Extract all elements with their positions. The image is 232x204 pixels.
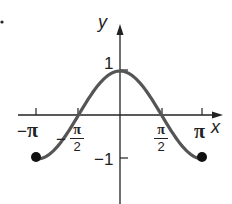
x-tick-label-neg-pi-half: π 2 [70,123,84,153]
y-axis-arrow-icon [117,24,124,35]
fraction-numerator: π [70,123,84,137]
x-tick-neg-half-sign: − [56,131,66,148]
y-ticks [120,70,128,158]
endpoint-left [31,152,41,162]
y-axis-label: y [98,13,107,31]
fraction-numerator: π [154,123,168,137]
bullet-mark [0,20,3,23]
x-ticks [36,108,202,115]
y-tick-label-1: 1 [104,55,113,72]
minus-sign: − [17,122,27,141]
y-tick-label-neg1: −1 [94,151,113,168]
cosine-graph [0,0,232,204]
fraction-denominator: 2 [70,140,84,153]
fraction-denominator: 2 [154,140,168,153]
x-axis-label: x [211,118,220,136]
x-tick-label-pi: π [194,121,205,141]
endpoint-right [197,152,207,162]
x-tick-label-neg-pi: −π [17,120,38,140]
x-tick-label-pi-half: π 2 [154,123,168,153]
pi-symbol: π [27,119,38,141]
